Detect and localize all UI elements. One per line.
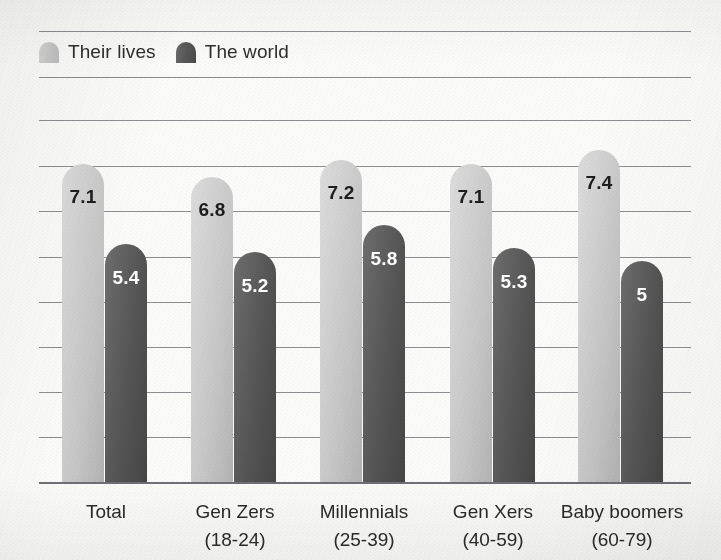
category-label-total: Total [44,498,168,526]
category-label-sub: (25-39) [302,526,426,554]
bar-value-label: 6.8 [191,199,233,221]
bar-value-label: 7.1 [450,186,492,208]
bar-their-lives-millennials[interactable]: 7.2 [320,160,362,483]
bar-their-lives-gen-zers[interactable]: 6.8 [191,177,233,483]
bar-value-label: 5.4 [105,267,147,289]
category-label-sub: (40-59) [431,526,555,554]
category-label-gen-xers: Gen Xers (40-59) [431,498,555,554]
bar-value-label: 5.2 [234,275,276,297]
bar-value-label: 7.4 [578,172,620,194]
bar-shape [62,164,104,483]
legend-swatch-icon [39,42,59,63]
bar-value-label: 5 [621,284,663,306]
category-label-main: Baby boomers [561,501,684,522]
x-axis-line [39,482,691,484]
legend-item-their-lives[interactable]: Their lives [39,41,156,63]
legend-label: Their lives [68,41,156,63]
legend-label: The world [205,41,289,63]
legend-item-the-world[interactable]: The world [176,41,289,63]
bar-value-label: 7.2 [320,182,362,204]
category-label-main: Gen Xers [453,501,533,522]
category-label-main: Total [86,501,126,522]
bar-their-lives-total[interactable]: 7.1 [62,164,104,483]
bar-the-world-gen-zers[interactable]: 5.2 [234,252,276,483]
bar-value-label: 5.3 [493,271,535,293]
category-label-main: Gen Zers [195,501,274,522]
x-axis-category-labels: Total Gen Zers (18-24) Millennials (25-3… [0,498,721,560]
category-label-main: Millennials [320,501,409,522]
bar-shape [320,160,362,483]
category-label-millennials: Millennials (25-39) [302,498,426,554]
bar-value-label: 7.1 [62,186,104,208]
bar-shape [578,150,620,483]
bar-the-world-gen-xers[interactable]: 5.3 [493,248,535,483]
category-label-sub: (60-79) [558,526,686,554]
bar-the-world-baby-boomers[interactable]: 5 [621,261,663,483]
bar-shape [191,177,233,483]
bar-chart: Their lives The world 7.1 5.4 6.8 5.2 [0,0,721,560]
chart-legend: Their lives The world [39,41,289,63]
bars-layer: 7.1 5.4 6.8 5.2 7.2 5.8 7.1 [0,0,721,560]
category-label-baby-boomers: Baby boomers (60-79) [558,498,686,554]
bar-the-world-total[interactable]: 5.4 [105,244,147,483]
legend-swatch-icon [176,42,196,63]
category-label-sub: (18-24) [173,526,297,554]
bar-their-lives-baby-boomers[interactable]: 7.4 [578,150,620,483]
bar-shape [450,164,492,483]
category-label-gen-zers: Gen Zers (18-24) [173,498,297,554]
bar-their-lives-gen-xers[interactable]: 7.1 [450,164,492,483]
bar-value-label: 5.8 [363,248,405,270]
bar-the-world-millennials[interactable]: 5.8 [363,225,405,483]
